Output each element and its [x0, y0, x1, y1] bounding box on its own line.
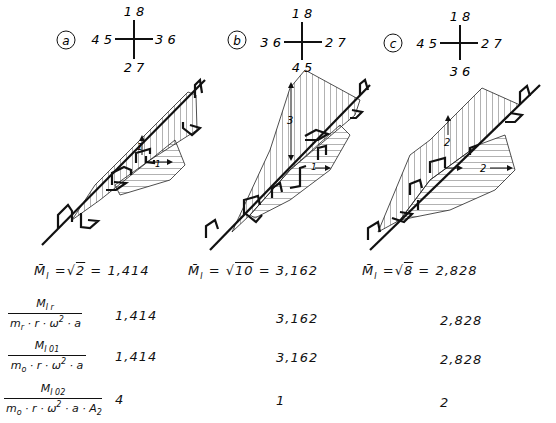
ratio-row-2-value-a: 1,414	[115, 349, 157, 364]
moment-label-horizontal: 1	[311, 162, 317, 172]
crank-pos-right: 2 7	[481, 36, 502, 51]
ratio-row-3-label: MI 02 mo · r · ω2 · a · A2	[4, 382, 102, 417]
variant-b: b 1 8 3 6 2 7 4 5 3 1	[206, 6, 370, 250]
variant-b-label: b	[233, 34, 241, 48]
mbar-formula-b: M̄I = √10 = 3,162	[188, 263, 318, 281]
crank-pos-left: 3 6	[260, 35, 281, 50]
ratio-row-1-value-b: 3,162	[276, 311, 318, 326]
moment-label-vertical: 3	[287, 115, 293, 126]
variant-c: c 1 8 4 5 2 7 3 6 2 2	[368, 9, 540, 250]
crankshaft-balance-figure: a 1 8 4 5 3 6 2 7 1 1 b 1 8 3 6	[0, 0, 556, 423]
variant-a-label: a	[62, 34, 69, 48]
crank-pos-top: 1 8	[450, 9, 471, 24]
variant-c-label: c	[390, 37, 397, 51]
mbar-formula-a: M̄I =√2 = 1,414	[34, 263, 150, 281]
crank-pos-top: 1 8	[124, 4, 145, 19]
crank-pos-left: 4 5	[91, 32, 112, 47]
crank-pos-bottom: 2 7	[124, 60, 145, 75]
ratio-row-2-value-b: 3,162	[276, 350, 318, 365]
ratio-row-3-value-a: 4	[115, 392, 124, 407]
moment-label-vertical: 2	[444, 137, 450, 148]
crank-pos-right: 3 6	[155, 32, 176, 47]
crank-pos-right: 2 7	[325, 35, 346, 50]
variant-a: a 1 8 4 5 3 6 2 7 1 1	[42, 4, 205, 245]
ratio-row-1-value-a: 1,414	[115, 308, 157, 323]
crank-pos-left: 4 5	[416, 36, 437, 51]
ratio-row-2-value-c: 2,828	[440, 352, 482, 367]
moment-label-horizontal: 1	[155, 159, 161, 169]
moment-label-horizontal: 2	[480, 163, 486, 174]
ratio-row-3-value-b: 1	[276, 393, 285, 408]
mbar-formula-c: M̄I =√8 = 2,828	[362, 263, 478, 281]
ratio-row-2-label: MI 01 mo · r · ω2 · a	[8, 339, 86, 374]
ratio-row-1-value-c: 2,828	[440, 313, 482, 328]
moment-label-vertical: 1	[137, 142, 143, 152]
ratio-row-3-value-c: 2	[440, 395, 449, 410]
crank-pos-top: 1 8	[292, 6, 313, 21]
ratio-row-1-label: MI r mr · r · ω2 · a	[8, 297, 82, 332]
crank-pos-bottom: 3 6	[450, 64, 471, 79]
